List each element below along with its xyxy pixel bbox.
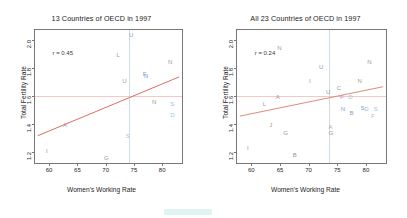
y-axis-tick-label: 1.6 xyxy=(228,96,234,104)
y-axis-tick xyxy=(234,124,237,125)
x-axis-tick-label: 65 xyxy=(277,167,284,173)
x-axis-tick xyxy=(337,163,338,166)
data-point-label: I xyxy=(46,148,48,154)
y-axis-tick xyxy=(32,40,35,41)
y-axis-tick xyxy=(32,152,35,153)
data-point-label: S xyxy=(126,133,130,139)
data-point-label: N xyxy=(277,45,281,51)
data-point-label: I xyxy=(309,78,311,84)
x-axis-tick-label: 60 xyxy=(248,167,255,173)
data-point-label: A xyxy=(63,122,67,128)
panel-right-y-axis-title: Total Fertility Rate xyxy=(222,48,229,138)
y-axis-tick-label: 1.4 xyxy=(228,124,234,132)
x-axis-tick-label: 80 xyxy=(363,167,370,173)
data-point-label: N xyxy=(357,78,361,84)
data-point-label: A xyxy=(276,94,280,100)
data-point-label: L xyxy=(116,52,119,58)
y-axis-tick-label: 1.8 xyxy=(26,68,32,76)
x-axis-tick-label: 75 xyxy=(131,167,138,173)
data-point-label: U xyxy=(122,78,126,84)
data-point-label: U xyxy=(319,64,323,70)
footer-highlight-bar xyxy=(164,209,212,215)
panel-left: 13 Countries of OECD in 1997 IAGLUSUFNNN… xyxy=(0,0,203,218)
x-axis-tick-label: 75 xyxy=(334,167,341,173)
y-axis-tick xyxy=(234,40,237,41)
data-point-label: G xyxy=(283,130,288,136)
y-axis-tick xyxy=(234,68,237,69)
y-axis-tick-label: 1.4 xyxy=(26,124,32,132)
x-axis-tick-label: 65 xyxy=(74,167,81,173)
panel-left-title: 13 Countries of OECD in 1997 xyxy=(0,14,203,23)
correlation-annotation: r = 0.45 xyxy=(53,50,74,56)
data-point-label: C xyxy=(337,85,341,91)
y-axis-tick xyxy=(32,124,35,125)
data-point-label: U xyxy=(326,89,330,95)
data-point-label: N xyxy=(168,59,172,65)
panel-left-x-axis-title: Women's Working Rate xyxy=(0,186,203,193)
y-axis-tick-label: 2.0 xyxy=(26,40,32,48)
x-axis-tick xyxy=(77,163,78,166)
y-axis-tick xyxy=(234,152,237,153)
y-axis-tick xyxy=(32,96,35,97)
data-point-label: S xyxy=(374,106,378,112)
x-axis-tick xyxy=(49,163,50,166)
data-point-label: F xyxy=(371,113,375,119)
data-point-label: L xyxy=(263,101,266,107)
panel-right-x-axis-title: Women's Working Rate xyxy=(204,186,407,193)
data-point-label: N xyxy=(367,59,371,65)
data-point-label: B xyxy=(293,152,297,158)
panel-left-plot-area: IAGLUSUFNNNSDr = 0.45 60657075801.21.41.… xyxy=(34,29,183,164)
y-axis-tick-label: 1.2 xyxy=(26,152,32,160)
x-axis-tick-label: 70 xyxy=(305,167,312,173)
y-axis-tick-label: 2.0 xyxy=(228,40,234,48)
figure-canvas: 13 Countries of OECD in 1997 IAGLUSUFNNN… xyxy=(0,0,407,218)
x-axis-tick-label: 70 xyxy=(102,167,109,173)
data-point-label: N xyxy=(144,73,148,79)
data-point-label: J xyxy=(269,122,272,128)
panel-right-plot-inner: ILJANGBIUUAGCFNDBNSDNFSr = 0.24 xyxy=(237,30,386,163)
data-point-label: U xyxy=(129,32,133,38)
correlation-annotation: r = 0.24 xyxy=(255,50,276,56)
panel-left-y-axis-title: Total Fertility Rate xyxy=(20,48,27,138)
panel-right: All 23 Countries of OECD in 1997 ILJANGB… xyxy=(204,0,407,218)
data-point-label: I xyxy=(247,145,249,151)
data-point-label: B xyxy=(350,110,354,116)
x-axis-tick xyxy=(162,163,163,166)
panel-right-plot-area: ILJANGBIUUAGCFNDBNSDNFSr = 0.24 60657075… xyxy=(236,29,387,164)
data-point-label: D xyxy=(170,112,174,118)
y-axis-tick xyxy=(32,68,35,69)
x-axis-tick xyxy=(251,163,252,166)
x-axis-tick xyxy=(366,163,367,166)
x-axis-tick-label: 80 xyxy=(159,167,166,173)
data-point-label: S xyxy=(170,101,174,107)
data-point-label: D xyxy=(348,94,352,100)
data-point-label: F xyxy=(340,94,344,100)
x-axis-tick xyxy=(134,163,135,166)
x-axis-tick xyxy=(280,163,281,166)
y-axis-tick-label: 1.2 xyxy=(228,152,234,160)
y-axis-tick xyxy=(234,96,237,97)
data-point-label: D xyxy=(364,106,368,112)
x-axis-tick xyxy=(106,163,107,166)
data-point-label: G xyxy=(104,155,109,161)
data-point-label: N xyxy=(341,106,345,112)
panel-right-title: All 23 Countries of OECD in 1997 xyxy=(204,14,407,23)
x-axis-tick xyxy=(309,163,310,166)
panel-left-plot-inner: IAGLUSUFNNNSDr = 0.45 xyxy=(35,30,182,163)
data-point-label: G xyxy=(329,130,334,136)
x-axis-tick-label: 60 xyxy=(46,167,53,173)
y-axis-tick-label: 1.8 xyxy=(228,68,234,76)
y-axis-tick-label: 1.6 xyxy=(26,96,32,104)
data-point-label: N xyxy=(152,99,156,105)
